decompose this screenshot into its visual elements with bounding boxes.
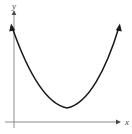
x-axis-label: x: [124, 117, 129, 127]
graph-canvas: y x: [0, 0, 132, 134]
figure-background: [0, 0, 132, 134]
y-axis-label: y: [11, 1, 16, 11]
parabola-figure: y x: [0, 0, 132, 134]
